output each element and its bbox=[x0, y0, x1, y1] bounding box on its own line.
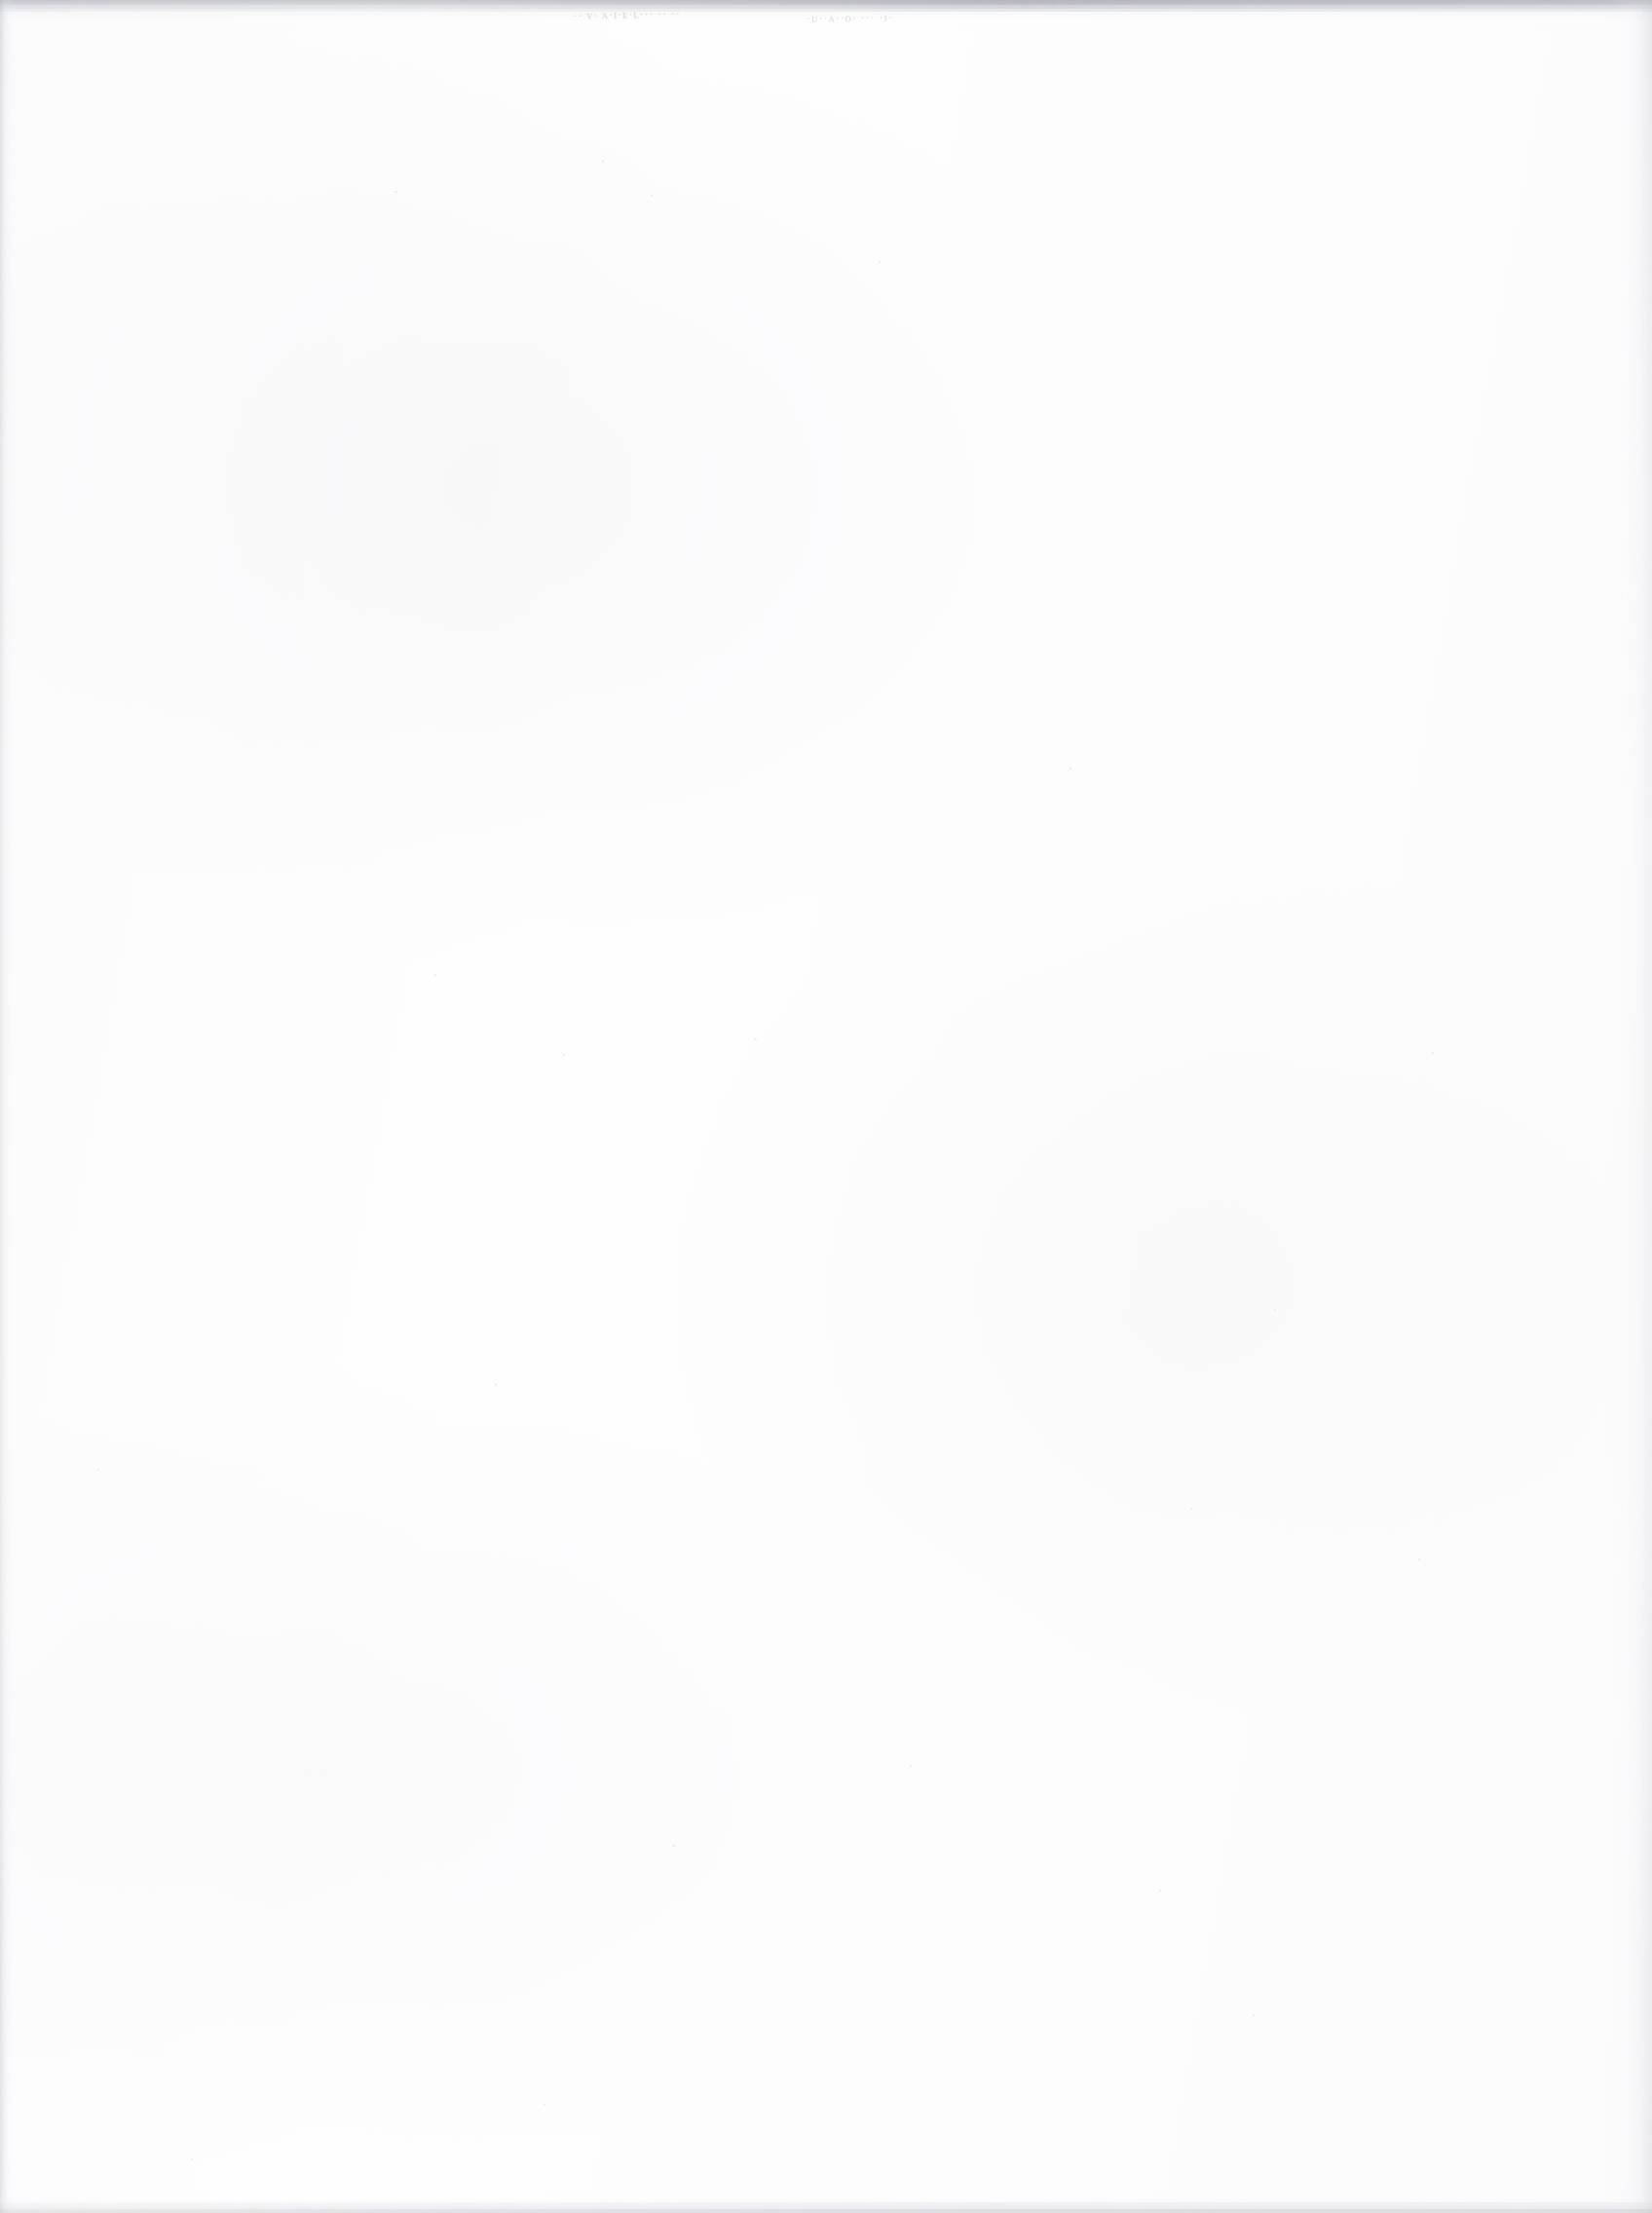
dust-speck bbox=[910, 1765, 912, 1767]
ink-mark-upper-left: ·· ᴠ· ᴀ·ɪ·ᴇ·ʟ··· ·· ·· bbox=[573, 4, 699, 29]
dust-speck bbox=[1159, 1890, 1161, 1892]
dust-speck bbox=[1432, 1052, 1434, 1054]
dust-speck bbox=[754, 1038, 757, 1040]
dust-speck bbox=[879, 261, 881, 263]
scan-edge-speckle-top bbox=[0, 0, 1652, 21]
scan-edge-speckle-bottom bbox=[0, 2197, 1652, 2213]
dust-speck bbox=[394, 191, 397, 193]
dust-speck bbox=[563, 1054, 565, 1056]
dust-speck bbox=[1070, 768, 1071, 769]
dust-speck bbox=[1253, 2014, 1255, 2016]
dust-speck bbox=[97, 1469, 99, 1471]
ink-mark-upper-right-text: ·ᴜ··ᴀ··ᴏ· ··· ·ɪ· bbox=[807, 11, 893, 26]
dust-speck bbox=[672, 1845, 675, 1847]
dust-speck bbox=[495, 1383, 497, 1386]
dust-speck bbox=[1274, 1309, 1276, 1311]
ink-mark-upper-left-text: ·· ᴠ· ᴀ·ɪ·ᴇ·ʟ··· ·· ·· bbox=[573, 6, 681, 23]
ink-mark-upper-right: ·ᴜ··ᴀ··ᴏ· ··· ·ɪ· bbox=[807, 6, 943, 33]
dust-speck bbox=[191, 2158, 193, 2160]
dust-speck bbox=[434, 974, 436, 976]
scanned-page: ·· ᴠ· ᴀ·ɪ·ᴇ·ʟ··· ·· ·· ·ᴜ··ᴀ··ᴏ· ··· ·ɪ· bbox=[0, 0, 1652, 2213]
scan-edge-shadow-top bbox=[0, 0, 1652, 25]
scan-edge-shadow-bottom bbox=[0, 2194, 1652, 2213]
dust-speck bbox=[651, 195, 653, 197]
dust-speck bbox=[544, 2104, 545, 2106]
dust-speck bbox=[1418, 1558, 1420, 1560]
dust-speck bbox=[1190, 1508, 1192, 1510]
scan-edge-shadow-left bbox=[0, 0, 16, 2213]
page-content-area bbox=[58, 58, 1594, 2155]
dust-speck bbox=[602, 160, 604, 163]
scan-edge-shadow-right bbox=[1607, 0, 1652, 2213]
